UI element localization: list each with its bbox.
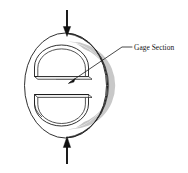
specimen-diagram (0, 0, 188, 173)
lower-slot (34, 95, 92, 127)
top-load-arrow (63, 10, 70, 37)
upper-slot (35, 45, 93, 79)
gage-section-label: Gage Section (134, 43, 174, 52)
bottom-load-arrow (63, 137, 70, 165)
figure-container: Gage Section (0, 0, 188, 173)
